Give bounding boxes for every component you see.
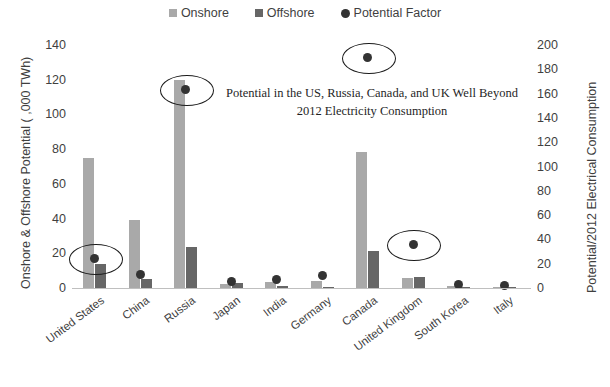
data-point-potential-factor[interactable] [318, 271, 327, 280]
bar-offshore[interactable] [141, 279, 152, 288]
y-axis-left-tick: 0 [30, 282, 66, 295]
bar-onshore[interactable] [311, 281, 322, 288]
y-axis-right-tick: 80 [537, 185, 571, 198]
x-axis-line [72, 288, 531, 289]
callout-line-1: Potential in the US, Russia, Canada, and… [222, 84, 522, 102]
y-axis-left-tick: 60 [30, 178, 66, 191]
y-axis-right-tick: 140 [537, 112, 571, 125]
y-axis-left-tick: 140 [30, 39, 66, 52]
y-axis-right-tick: 120 [537, 136, 571, 149]
y-axis-left-tick: 120 [30, 74, 66, 87]
bar-offshore[interactable] [414, 277, 425, 288]
data-point-potential-factor[interactable] [272, 275, 281, 284]
y-axis-right-tick: 160 [537, 88, 571, 101]
bar-onshore[interactable] [174, 80, 185, 288]
highlight-ellipse [387, 230, 441, 261]
callout-annotation: Potential in the US, Russia, Canada, and… [222, 84, 522, 120]
legend-item-potential-factor[interactable]: Potential Factor [341, 6, 442, 20]
y-axis-right-tick: 0 [537, 282, 571, 295]
y-axis-right-tick: 100 [537, 161, 571, 174]
chart-container: Onshore Offshore Potential Factor Onshor… [0, 0, 610, 387]
highlight-ellipse [342, 43, 396, 74]
y-axis-right-tick: 40 [537, 233, 571, 246]
y-axis-left-tick: 80 [30, 143, 66, 156]
y-axis-left-tick: 100 [30, 108, 66, 121]
legend-item-offshore[interactable]: Offshore [255, 6, 315, 20]
highlight-ellipse [69, 244, 123, 275]
y-axis-right-ticks: 200180160140120100806040200 [537, 0, 571, 387]
y-axis-left-tick: 40 [30, 213, 66, 226]
y-axis-left-tick: 20 [30, 247, 66, 260]
legend-swatch-icon [255, 9, 263, 17]
bar-onshore[interactable] [356, 152, 367, 288]
bar-offshore[interactable] [186, 247, 197, 288]
bar-onshore[interactable] [402, 278, 413, 288]
y-axis-right-tick: 180 [537, 63, 571, 76]
chart-legend: Onshore Offshore Potential Factor [0, 6, 610, 20]
legend-dot-icon [341, 9, 350, 18]
plot-area [72, 45, 527, 288]
legend-label: Onshore [181, 6, 229, 20]
highlight-ellipse [160, 75, 214, 106]
legend-item-onshore[interactable]: Onshore [169, 6, 229, 20]
legend-label: Offshore [267, 6, 315, 20]
legend-swatch-icon [169, 9, 177, 17]
bar-offshore[interactable] [368, 251, 379, 288]
y-axis-right-tick: 20 [537, 258, 571, 271]
callout-line-2: 2012 Electricity Consumption [222, 102, 522, 120]
legend-label: Potential Factor [354, 6, 442, 20]
y-axis-right-tick: 200 [537, 39, 571, 52]
y-axis-right-tick: 60 [537, 209, 571, 222]
data-point-potential-factor[interactable] [136, 270, 145, 279]
y-axis-right-title: Potential/2012 Electrical Consumption [585, 82, 599, 293]
